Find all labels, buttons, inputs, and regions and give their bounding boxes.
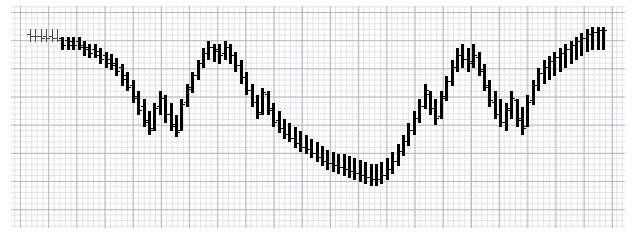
ohlc-bar (195, 60, 202, 80)
ohlc-bar (216, 44, 223, 64)
ohlc-bar (481, 64, 488, 91)
ohlc-bar (303, 135, 310, 154)
chart-root (0, 0, 635, 243)
ohlc-bar (341, 154, 348, 176)
ohlc-bar (530, 80, 537, 105)
ohlc-bar (486, 80, 493, 107)
ohlc-bar (514, 99, 521, 127)
ohlc-bar (438, 91, 445, 119)
ohlc-bar (578, 33, 585, 56)
ohlc-bar (459, 44, 466, 68)
ohlc-bar (368, 164, 375, 186)
ohlc-bar (351, 158, 358, 180)
ohlc-bar (384, 158, 391, 180)
ohlc-bar (335, 154, 342, 174)
ohlc-bar (600, 27, 607, 50)
ohlc-bar (141, 99, 148, 127)
ohlc-bar (395, 144, 402, 166)
ohlc-bar (211, 44, 218, 62)
ohlc-bar (568, 41, 575, 64)
ohlc-bar (54, 29, 61, 42)
ohlc-bar (124, 72, 131, 91)
ohlc-bar (584, 29, 591, 52)
ohlc-bar (314, 142, 321, 162)
ohlc-bar (541, 60, 548, 84)
ohlc-bar (389, 152, 396, 174)
ohlc-bar (432, 99, 439, 125)
ohlc-bar (59, 37, 66, 50)
ohlc-bar (551, 52, 558, 76)
ohlc-bar (113, 58, 120, 76)
ohlc-bar (416, 99, 423, 123)
ohlc-bar (281, 119, 288, 139)
ohlc-bar (427, 91, 434, 115)
ohlc-bar (378, 162, 385, 184)
ohlc-bar (357, 160, 364, 182)
ohlc-bar (546, 56, 553, 80)
ohlc-bar (243, 72, 250, 95)
ohlc-bar (162, 95, 169, 123)
ohlc-bar (119, 64, 126, 86)
ohlc-bar (270, 103, 277, 127)
ohlc-bar (503, 103, 510, 131)
ohlc-bar (200, 48, 207, 68)
ohlc-bar (168, 103, 175, 131)
ohlc-bar (449, 60, 456, 86)
ohlc-bar (49, 29, 56, 42)
ohlc-bar (297, 131, 304, 152)
ohlc-bar (259, 88, 266, 115)
ohlc-bar (346, 156, 353, 178)
ohlc-bar (524, 95, 531, 127)
ohlc-bar (362, 162, 369, 184)
ohlc-bar (65, 37, 72, 50)
ohlc-bar (400, 135, 407, 156)
ohlc-bar (330, 152, 337, 172)
ohlc-bar (92, 44, 99, 58)
ohlc-bar (254, 95, 261, 119)
ohlc-bar (286, 123, 293, 142)
ohlc-bar (589, 27, 596, 50)
ohlc-bar (222, 41, 229, 60)
ohlc-bar (32, 29, 39, 42)
ohlc-bar (557, 48, 564, 72)
ohlc-bar (324, 150, 331, 170)
ohlc-bar (76, 37, 83, 50)
ohlc-bar (308, 139, 315, 158)
ohlc-bar (232, 52, 239, 72)
ohlc-bar (508, 91, 515, 119)
ohlc-bar (130, 80, 137, 103)
ohlc-bar (238, 60, 245, 84)
ohlc-bar (38, 29, 45, 42)
ohlc-bar (178, 99, 185, 131)
ohlc-bar (108, 54, 115, 70)
ohlc-bar (43, 29, 50, 42)
ohlc-bar (443, 76, 450, 101)
ohlc-bar (422, 84, 429, 109)
ohlc-bar (373, 164, 380, 186)
ohlc-bar (562, 44, 569, 68)
ohlc-plot-area (0, 0, 635, 243)
ohlc-bar (497, 99, 504, 127)
ohlc-bar (151, 103, 158, 131)
ohlc-bar (319, 146, 326, 166)
ohlc-bar (227, 44, 234, 64)
ohlc-bar (173, 115, 180, 137)
ohlc-bar (573, 37, 580, 60)
ohlc-bar (135, 91, 142, 115)
ohlc-bar (70, 37, 77, 50)
ohlc-bar (27, 29, 34, 42)
ohlc-bar (535, 68, 542, 91)
ohlc-bar (465, 48, 472, 72)
ohlc-bar (454, 48, 461, 72)
ohlc-bar (205, 41, 212, 60)
ohlc-bar (86, 44, 93, 58)
ohlc-bar (405, 123, 412, 146)
ohlc-bar (411, 111, 418, 135)
ohlc-bar (157, 91, 164, 115)
